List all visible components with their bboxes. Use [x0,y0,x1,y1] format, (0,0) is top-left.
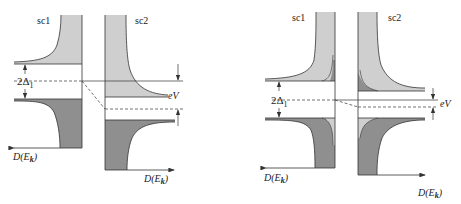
fermi-shift-dashed [335,100,358,107]
gap-label: 2Δ1 [271,94,288,109]
sc2-lower-dos [105,120,175,170]
sc1-lower-dos [14,99,82,148]
gap-label: 2Δ1 [17,75,34,90]
right-panel: sc1 sc2 2Δ1 eV D(Ek) D(Ek) [263,12,452,200]
fermi-shift-dashed [82,81,105,109]
sc2-dos-axis-label: D(Ek) [417,187,443,200]
sc1-lower-dos [265,118,335,168]
sc1-dos-axis-label: D(Ek) [12,151,38,164]
left-panel: sc1 sc2 2Δ1 eV D(Ek) D(Ek) [12,15,183,186]
sc1-dos-axis-label: D(Ek) [263,172,289,185]
sc1-label: sc1 [37,15,50,26]
sc2-dos-axis-label: D(Ek) [143,173,169,186]
sc2-label: sc2 [135,15,148,26]
bias-label: eV [440,98,452,109]
bias-label: eV [168,90,180,101]
sc2-lower-dos [358,118,425,175]
sc1-label: sc1 [292,12,305,23]
sc2-label: sc2 [388,12,401,23]
sc2-upper-dos [105,15,168,97]
tunneling-diagram: sc1 sc2 2Δ1 eV D(Ek) D(Ek) [0,0,461,204]
